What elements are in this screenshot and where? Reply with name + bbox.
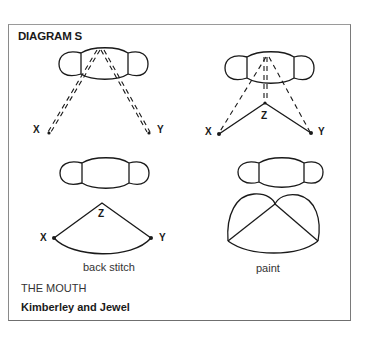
caption-back-stitch: back stitch <box>83 261 135 273</box>
label-z-bottom-left: Z <box>98 208 104 219</box>
label-y-top-right: Y <box>318 126 325 137</box>
dashed-stitch-lines <box>219 57 310 133</box>
mouth-shape-bottom-right <box>238 158 323 188</box>
diagram-credit: Kimberley and Jewel <box>21 301 130 313</box>
mouth-shape-top-left <box>59 48 148 80</box>
stitch-points <box>47 101 313 240</box>
diagram-subtitle: THE MOUTH <box>21 282 86 294</box>
label-x-top-right: X <box>205 126 212 137</box>
label-y-top-left: Y <box>157 124 164 135</box>
mouth-shape-bottom-left <box>60 158 149 189</box>
paint-area-shape <box>228 194 319 253</box>
label-x-bottom-left: X <box>40 232 47 243</box>
double-dashed-stitch-lines <box>48 50 150 132</box>
mouth-shape-top-right <box>225 52 314 84</box>
label-x-top-left: X <box>33 124 40 135</box>
caption-paint: paint <box>256 262 280 274</box>
label-y-bottom-left: Y <box>159 232 166 243</box>
label-z-top-right: Z <box>261 110 267 121</box>
